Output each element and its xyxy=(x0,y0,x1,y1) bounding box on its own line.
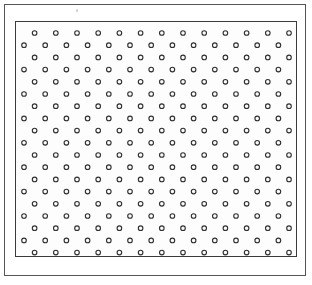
lattice-circle-marker xyxy=(266,250,271,255)
lattice-circle-marker xyxy=(223,104,228,109)
lattice-circle-marker xyxy=(223,128,228,133)
lattice-circle-marker xyxy=(22,116,27,121)
lattice-circle-marker xyxy=(138,202,143,207)
lattice-circle-marker xyxy=(149,67,154,72)
lattice-circle-marker xyxy=(223,177,228,182)
lattice-circle-marker xyxy=(117,55,122,60)
lattice-circle-marker xyxy=(107,214,112,219)
lattice-row xyxy=(22,92,297,97)
lattice-circle-marker xyxy=(85,92,90,97)
lattice-circle-marker xyxy=(107,189,112,194)
lattice-row xyxy=(22,67,297,72)
lattice-row xyxy=(32,55,291,60)
lattice-circle-marker xyxy=(276,165,281,170)
lattice-circle-marker xyxy=(213,67,218,72)
lattice-circle-marker xyxy=(244,128,249,133)
circle-lattice xyxy=(16,22,297,257)
lattice-row xyxy=(22,43,297,48)
lattice-circle-marker xyxy=(181,31,186,36)
lattice-circle-marker xyxy=(170,238,175,243)
lattice-circle-marker xyxy=(32,104,37,109)
lattice-circle-marker xyxy=(117,226,122,231)
lattice-circle-marker xyxy=(170,189,175,194)
lattice-row xyxy=(32,128,291,133)
lattice-circle-marker xyxy=(160,104,165,109)
lattice-circle-marker xyxy=(181,55,186,60)
lattice-circle-marker xyxy=(234,92,239,97)
lattice-circle-marker xyxy=(117,153,122,158)
lattice-circle-marker xyxy=(234,214,239,219)
lattice-circle-marker xyxy=(54,202,59,207)
lattice-row xyxy=(22,165,297,170)
lattice-circle-marker xyxy=(255,141,260,146)
lattice-circle-marker xyxy=(138,80,143,85)
lattice-circle-marker xyxy=(266,226,271,231)
lattice-circle-marker xyxy=(202,177,207,182)
lattice-circle-marker xyxy=(287,250,292,255)
lattice-circle-marker xyxy=(22,189,27,194)
lattice-circle-marker xyxy=(43,189,48,194)
lattice-circle-marker xyxy=(138,226,143,231)
lattice-circle-marker xyxy=(128,67,133,72)
lattice-circle-marker xyxy=(149,116,154,121)
lattice-circle-marker xyxy=(128,214,133,219)
lattice-circle-marker xyxy=(234,189,239,194)
lattice-circle-marker xyxy=(149,141,154,146)
lattice-circle-marker xyxy=(266,31,271,36)
lattice-circle-marker xyxy=(202,80,207,85)
lattice-circle-marker xyxy=(75,31,80,36)
lattice-circle-marker xyxy=(191,141,196,146)
lattice-circle-marker xyxy=(266,80,271,85)
lattice-circle-marker xyxy=(255,189,260,194)
lattice-circle-marker xyxy=(128,43,133,48)
lattice-circle-marker xyxy=(191,189,196,194)
lattice-circle-marker xyxy=(255,67,260,72)
lattice-circle-marker xyxy=(213,92,218,97)
lattice-circle-marker xyxy=(244,177,249,182)
lattice-circle-marker xyxy=(170,165,175,170)
lattice-circle-marker xyxy=(32,31,37,36)
lattice-circle-marker xyxy=(160,80,165,85)
lattice-circle-marker xyxy=(266,202,271,207)
lattice-circle-marker xyxy=(223,202,228,207)
lattice-circle-marker xyxy=(107,141,112,146)
lattice-circle-marker xyxy=(138,250,143,255)
lattice-circle-marker xyxy=(75,128,80,133)
lattice-circle-marker xyxy=(85,189,90,194)
lattice-circle-marker xyxy=(32,128,37,133)
lattice-circle-marker xyxy=(64,43,69,48)
lattice-circle-marker xyxy=(287,128,292,133)
lattice-circle-marker xyxy=(54,80,59,85)
lattice-circle-marker xyxy=(181,104,186,109)
lattice-circle-marker xyxy=(244,153,249,158)
lattice-circle-marker xyxy=(138,177,143,182)
lattice-row xyxy=(32,202,291,207)
lattice-circle-marker xyxy=(234,67,239,72)
lattice-circle-marker xyxy=(85,116,90,121)
lattice-row xyxy=(32,226,291,231)
lattice-circle-marker xyxy=(202,55,207,60)
lattice-circle-marker xyxy=(191,165,196,170)
lattice-circle-marker xyxy=(191,43,196,48)
lattice-circle-marker xyxy=(54,153,59,158)
lattice-circle-marker xyxy=(107,43,112,48)
lattice-circle-marker xyxy=(117,31,122,36)
lattice-circle-marker xyxy=(160,250,165,255)
lattice-circle-marker xyxy=(43,238,48,243)
lattice-circle-marker xyxy=(96,250,101,255)
lattice-circle-marker xyxy=(22,214,27,219)
lattice-circle-marker xyxy=(213,141,218,146)
lattice-circle-marker xyxy=(191,238,196,243)
lattice-circle-marker xyxy=(75,55,80,60)
lattice-row xyxy=(22,116,297,121)
lattice-circle-marker xyxy=(287,55,292,60)
lattice-circle-marker xyxy=(223,80,228,85)
lattice-circle-marker xyxy=(244,202,249,207)
lattice-circle-marker xyxy=(64,214,69,219)
lattice-circle-marker xyxy=(96,80,101,85)
lattice-circle-marker xyxy=(202,250,207,255)
lattice-circle-marker xyxy=(96,202,101,207)
lattice-circle-marker xyxy=(128,238,133,243)
lattice-circle-marker xyxy=(64,141,69,146)
lattice-circle-marker xyxy=(202,31,207,36)
